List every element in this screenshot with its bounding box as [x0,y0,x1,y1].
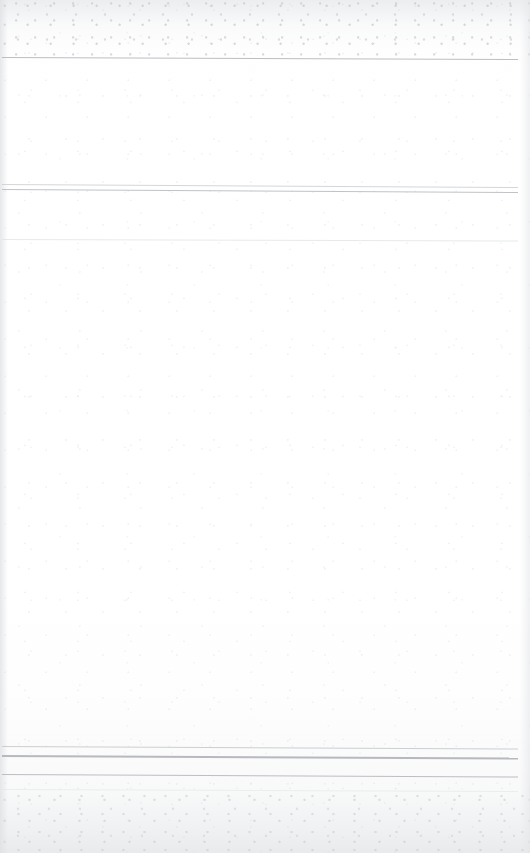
top-frame-rule [2,57,518,60]
subsection-rule [2,239,518,242]
scanned-document-page [0,0,530,853]
footer-rule-upper [2,746,518,750]
section-divider-upper [2,184,518,188]
footer-rule-lower [2,774,518,778]
footer-rule-middle [2,755,518,759]
rule-set [0,0,530,853]
section-divider-lower [2,189,518,193]
footer-rule-faint [2,789,518,792]
